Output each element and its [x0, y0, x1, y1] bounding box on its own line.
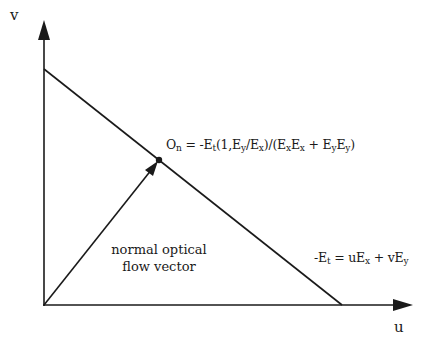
v-axis-label: v [10, 6, 18, 24]
v-axis-arrowhead-icon [38, 20, 50, 40]
eq-part: (1,E [216, 137, 241, 152]
eq-part: E [291, 137, 300, 152]
vector-caption: normal optical flow vector [104, 241, 214, 275]
eq-part: O [166, 137, 176, 152]
eq-part: ) [350, 137, 355, 152]
constraint-equation: -Et = uEx + vEy [314, 250, 408, 266]
eq-part: + vE [370, 250, 404, 265]
eq-part: + E [305, 137, 332, 152]
eq-part: = -E [182, 137, 213, 152]
eq-part: E [336, 137, 345, 152]
diagram-canvas [0, 0, 427, 344]
eq-part: )/(E [264, 137, 286, 152]
normal-point-equation: On = -Et(1,Ey/Ex)/(ExEx + EyEy) [166, 137, 355, 153]
eq-sub: y [403, 256, 408, 266]
normal-flow-vector [44, 169, 152, 305]
vector-caption-line-1: normal optical [104, 241, 214, 258]
vector-caption-line-2: flow vector [104, 258, 214, 275]
eq-part: /E [246, 137, 259, 152]
normal-point-dot [156, 157, 162, 163]
u-axis-label: u [394, 318, 404, 336]
eq-part: = uE [330, 250, 365, 265]
eq-part: -E [314, 250, 327, 265]
normal-flow-arrowhead-icon [145, 161, 158, 176]
u-axis-arrowhead-icon [393, 299, 413, 311]
